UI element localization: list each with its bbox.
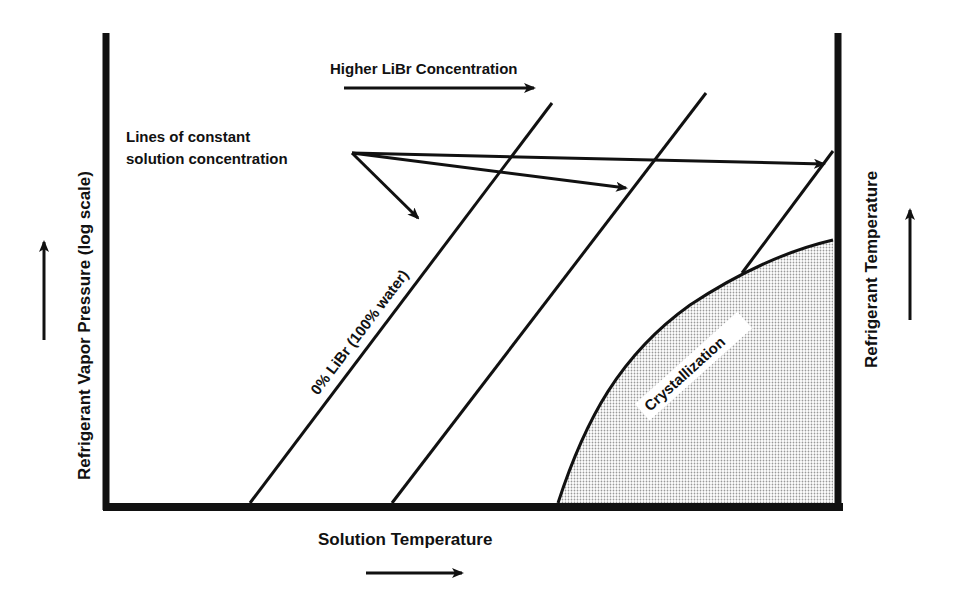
callout-arrow-to-line-1 <box>352 153 418 218</box>
y-axis-left-label: Refrigerant Vapor Pressure (log scale) <box>75 171 94 480</box>
diagram-canvas: Higher LiBr Concentration Lines of const… <box>0 0 960 610</box>
x-axis-label: Solution Temperature <box>318 530 492 549</box>
zero-percent-libr-line <box>250 103 552 503</box>
zero-percent-libr-label: 0% LiBr (100% water) <box>307 266 412 397</box>
callout-label-line1: Lines of constant <box>126 128 250 145</box>
callout-label-line2: solution concentration <box>126 150 288 167</box>
y-axis-right-label: Refrigerant Temperature <box>862 171 881 368</box>
higher-concentration-label: Higher LiBr Concentration <box>330 60 518 77</box>
